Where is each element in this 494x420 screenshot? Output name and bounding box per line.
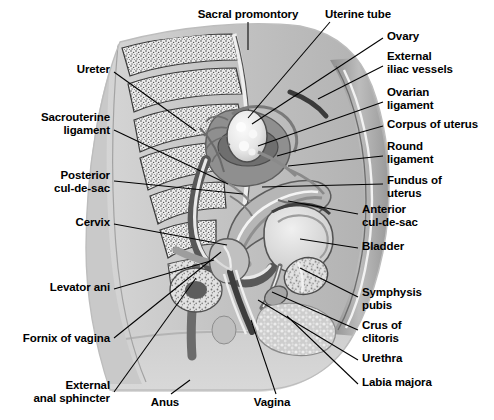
label-fundus-of-uterus: Fundus of uterus <box>387 174 442 199</box>
label-labia-majora: Labia majora <box>362 376 432 389</box>
label-levator-ani: Levator ani <box>0 281 110 294</box>
label-sacrouterine-ligament: Sacrouterine ligament <box>0 111 110 136</box>
label-ovarian-ligament: Ovarian ligament <box>387 86 434 111</box>
label-crus-of-clitoris: Crus of clitoris <box>362 319 402 344</box>
label-urethra: Urethra <box>362 352 402 365</box>
label-corpus-of-uterus: Corpus of uterus <box>387 118 478 131</box>
thigh-block <box>96 330 392 394</box>
label-round-ligament: Round ligament <box>387 140 434 165</box>
label-vagina: Vagina <box>202 396 342 409</box>
label-cervix: Cervix <box>0 216 110 229</box>
label-fornix-of-vagina: Fornix of vagina <box>0 332 110 345</box>
label-posterior-cul-de-sac: Posterior cul-de-sac <box>0 169 110 194</box>
label-external-anal-sphincter: External anal sphincter <box>0 379 110 404</box>
illustration-body <box>86 24 392 394</box>
label-bladder: Bladder <box>362 240 404 253</box>
label-external-iliac-vessels: External iliac vessels <box>387 50 453 75</box>
label-ovary: Ovary <box>387 30 419 43</box>
perineal-body <box>212 316 236 344</box>
anal-sphincter-inner <box>185 281 207 299</box>
label-uterine-tube: Uterine tube <box>288 8 428 21</box>
label-anterior-cul-de-sac: Anterior cul-de-sac <box>362 203 418 228</box>
label-symphysis-pubis: Symphysis pubis <box>362 286 422 311</box>
label-ureter: Ureter <box>0 63 110 76</box>
